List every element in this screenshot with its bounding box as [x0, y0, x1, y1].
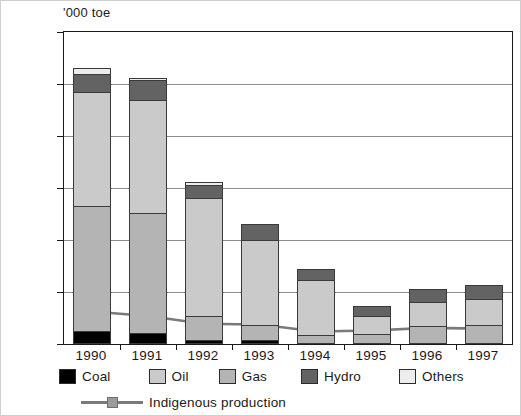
bar-segment-hydro: [465, 285, 503, 299]
line-key-marker: [107, 397, 118, 408]
legend-line-row: Indigenous production: [59, 392, 514, 412]
legend-item-gas[interactable]: Gas: [219, 369, 267, 384]
x-axis-tick-label: 1997: [467, 348, 498, 363]
bar-segment-gas: [465, 325, 503, 345]
bar-segment-oil: [409, 302, 447, 325]
bar-segment-gas: [409, 326, 447, 344]
bar-segment-gas: [185, 316, 223, 339]
bar-segment-hydro: [353, 306, 391, 316]
x-axis-tick-label: 1993: [243, 348, 274, 363]
legend-series-row: CoalOilGasHydroOthers: [59, 367, 514, 386]
legend-line-label: Indigenous production: [149, 395, 286, 410]
bar-segment-gas: [73, 206, 111, 331]
bar-segment-hydro: [241, 224, 279, 240]
legend-item-hydro[interactable]: Hydro: [301, 369, 361, 384]
bar-1995: [353, 32, 391, 344]
bar-segment-coal: [73, 331, 111, 344]
bar-segment-oil: [353, 316, 391, 334]
plot-area: [63, 31, 513, 345]
legend-item-coal[interactable]: Coal: [59, 369, 111, 384]
legend-swatch-others: [399, 369, 416, 384]
bar-segment-gas: [241, 325, 279, 341]
legend-swatch-gas: [219, 369, 236, 384]
y-axis-tick: [57, 240, 64, 241]
x-axis-tick-label: 1991: [131, 348, 162, 363]
bar-segment-oil: [241, 240, 279, 325]
bar-segment-hydro: [185, 185, 223, 198]
bar-1991: [129, 32, 167, 344]
y-axis-tick: [57, 136, 64, 137]
y-axis-unit-label: '000 toe: [63, 5, 110, 20]
legend-swatch-oil: [149, 369, 166, 384]
chart-figure: '000 toe 02 0004 0006 0008 00010 00012 0…: [0, 0, 521, 416]
bar-segment-oil: [465, 299, 503, 325]
legend-swatch-hydro: [301, 369, 318, 384]
y-axis-tick: [57, 292, 64, 293]
x-axis-tick-label: 1996: [411, 348, 442, 363]
bar-1993: [241, 32, 279, 344]
bar-segment-hydro: [129, 80, 167, 100]
legend-label-gas: Gas: [242, 369, 267, 384]
x-axis-tick-label: 1994: [299, 348, 330, 363]
legend-label-hydro: Hydro: [324, 369, 361, 384]
bar-segment-oil: [185, 198, 223, 316]
bar-segment-coal: [185, 340, 223, 344]
legend-swatch-coal: [59, 369, 76, 384]
y-axis-tick: [57, 84, 64, 85]
x-axis-tick-label: 1995: [355, 348, 386, 363]
plot-inner: [64, 32, 512, 344]
y-axis-tick: [57, 32, 64, 33]
bar-segment-oil: [73, 92, 111, 206]
bar-segment-coal: [129, 333, 167, 344]
x-axis-labels: 19901991199219931994199519961997: [63, 348, 513, 368]
bar-1992: [185, 32, 223, 344]
legend-label-coal: Coal: [82, 369, 111, 384]
legend-item-others[interactable]: Others: [399, 369, 464, 384]
bar-segment-oil: [297, 280, 335, 336]
legend-label-others: Others: [422, 369, 464, 384]
bar-segment-others: [185, 182, 223, 185]
bar-1997: [465, 32, 503, 344]
bar-segment-others: [129, 78, 167, 81]
bar-1994: [297, 32, 335, 344]
bar-segment-gas: [353, 334, 391, 344]
legend: CoalOilGasHydroOthers Indigenous product…: [59, 367, 514, 412]
line-series-key-icon: [81, 395, 143, 409]
x-axis-tick-label: 1990: [75, 348, 106, 363]
bar-segment-coal: [241, 340, 279, 344]
bar-segment-hydro: [73, 74, 111, 92]
bar-segment-oil: [129, 100, 167, 213]
y-axis-tick: [57, 344, 64, 345]
bar-segment-hydro: [409, 289, 447, 303]
x-axis-tick-label: 1992: [187, 348, 218, 363]
bar-1996: [409, 32, 447, 344]
bar-segment-gas: [129, 213, 167, 333]
y-axis-tick: [57, 188, 64, 189]
bar-1990: [73, 32, 111, 344]
legend-item-oil[interactable]: Oil: [149, 369, 189, 384]
bar-segment-hydro: [297, 269, 335, 279]
legend-label-oil: Oil: [172, 369, 189, 384]
bar-segment-gas: [297, 335, 335, 344]
bar-segment-others: [73, 68, 111, 73]
